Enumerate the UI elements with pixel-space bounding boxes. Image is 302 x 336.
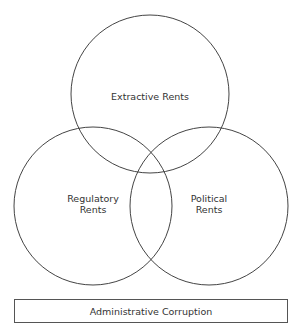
label-regulatory-rents: Regulatory Rents <box>67 193 119 215</box>
administrative-corruption-label: Administrative Corruption <box>90 306 213 317</box>
label-political-rents: Political Rents <box>191 193 228 215</box>
label-regulatory-rents-line2: Rents <box>67 204 119 215</box>
venn-circles <box>0 0 302 336</box>
label-political-rents-line2: Rents <box>191 204 228 215</box>
label-extractive-rents: Extractive Rents <box>111 91 189 102</box>
label-extractive-rents-line1: Extractive Rents <box>111 91 189 102</box>
label-regulatory-rents-line1: Regulatory <box>67 193 119 204</box>
administrative-corruption-box: Administrative Corruption <box>14 299 288 323</box>
venn-diagram: Extractive Rents Regulatory Rents Politi… <box>0 0 302 336</box>
label-political-rents-line1: Political <box>191 193 228 204</box>
